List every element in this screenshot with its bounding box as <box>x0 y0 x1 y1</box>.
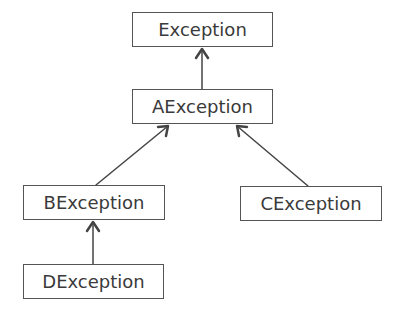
node-label: AException <box>152 96 253 117</box>
class-hierarchy-diagram: Exception AException BException CExcepti… <box>0 0 403 313</box>
edge-cexception-to-aexception <box>237 126 308 186</box>
node-aexception: AException <box>132 89 273 124</box>
edge-dexception-to-bexception <box>87 222 99 264</box>
node-exception: Exception <box>132 12 273 47</box>
edge-aexception-to-exception <box>196 49 208 89</box>
node-label: DException <box>42 271 144 292</box>
node-dexception: DException <box>23 264 164 299</box>
node-bexception: BException <box>23 185 165 220</box>
node-label: CException <box>260 193 361 214</box>
node-cexception: CException <box>240 186 382 221</box>
edge-bexception-to-aexception <box>96 126 168 185</box>
node-label: BException <box>44 192 145 213</box>
node-label: Exception <box>158 19 247 40</box>
